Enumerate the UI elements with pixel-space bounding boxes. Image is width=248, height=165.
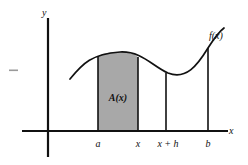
margin-dash-mark [9,70,18,72]
x-axis-label: x [228,125,234,136]
figure-canvas: y x f(x) A(x) a x x + h b [0,0,248,165]
curve-label-fx: f(x) [209,30,224,42]
tick-label-x-plus-h: x + h [156,138,178,149]
function-curve [70,28,224,79]
tick-label-x: x [135,138,141,149]
y-axis-label: y [41,7,47,18]
tick-label-b: b [206,138,211,149]
area-label-ax: A(x) [108,92,127,104]
diagram-svg: y x f(x) A(x) a x x + h b [0,0,248,165]
tick-label-a: a [96,138,101,149]
